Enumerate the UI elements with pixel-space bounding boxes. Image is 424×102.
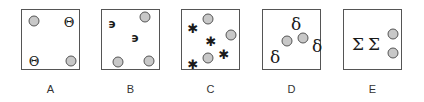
sigma-symbol: Σ [368,36,380,53]
option-label-d: D [262,83,321,95]
gray-circle-icon [226,30,237,41]
gray-circle-icon [203,53,214,64]
gray-circle-icon [388,29,399,40]
gray-circle-icon [29,16,40,27]
gray-circle-icon [66,56,77,67]
option-panel-c[interactable]: ✱✱✱✱ [181,9,240,70]
gray-circle-icon [144,56,155,67]
asterisk-symbol: ✱ [206,35,217,48]
delta-symbol: δ [291,16,301,33]
delta-symbol: δ [270,49,280,66]
reversed-epsilon-symbol: ϶ [131,32,139,44]
gray-circle-icon [388,48,399,59]
delta-symbol: δ [312,38,322,55]
option-label-a: A [21,83,80,95]
asterisk-symbol: ✱ [188,22,199,35]
option-panel-e[interactable]: ΣΣ [343,9,402,70]
sigma-symbol: Σ [352,36,364,53]
gray-circle-icon [298,33,309,44]
gray-circle-icon [282,36,293,47]
gray-circle-icon [113,57,124,68]
option-panel-b[interactable]: ϶϶ [101,9,160,70]
asterisk-symbol: ✱ [188,58,199,71]
gray-circle-icon [203,14,214,25]
reversed-epsilon-symbol: ϶ [108,18,116,30]
gray-circle-icon [140,12,151,23]
option-panel-a[interactable]: ΘΘ [21,9,80,70]
option-label-c: C [181,83,240,95]
theta-symbol: Θ [29,55,40,68]
option-label-e: E [343,83,402,95]
theta-symbol: Θ [64,16,75,29]
option-label-b: B [101,83,160,95]
option-panel-d[interactable]: δδδ [262,9,321,70]
asterisk-symbol: ✱ [219,48,230,61]
